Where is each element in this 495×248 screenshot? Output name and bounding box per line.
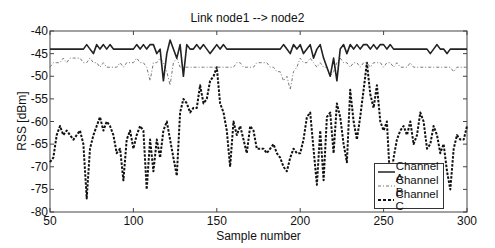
y-tick-label: -45 (31, 47, 49, 61)
x-tick-label: 150 (207, 214, 227, 228)
x-tick-label: 300 (457, 214, 477, 228)
x-tick-label: 200 (290, 214, 310, 228)
series-channel-b (50, 58, 467, 90)
legend-label: Channel C (395, 188, 443, 212)
legend-item-channel-c: Channel C (377, 193, 443, 207)
y-tick-label: -65 (31, 137, 49, 151)
x-tick-label: 250 (374, 214, 394, 228)
series-channel-a (50, 40, 467, 81)
y-tick-label: -50 (31, 69, 49, 83)
legend: Channel A Channel B Channel C (374, 163, 444, 209)
y-tick-label: -75 (31, 182, 49, 196)
y-tick-label: -80 (31, 205, 49, 219)
x-tick-label: 100 (123, 214, 143, 228)
y-tick-label: -70 (31, 160, 49, 174)
solid-line-icon (377, 169, 395, 175)
y-tick-label: -40 (31, 24, 49, 38)
y-tick-label: -55 (31, 92, 49, 106)
y-tick-label: -60 (31, 115, 49, 129)
dash-dot-line-icon (377, 183, 395, 189)
dashed-line-icon (377, 197, 394, 203)
